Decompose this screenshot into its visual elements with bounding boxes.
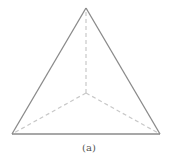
edge-top-bottom-left: [12, 8, 86, 134]
figure-caption: (a): [0, 142, 178, 153]
hidden-edge-center-bottom-right: [86, 93, 160, 134]
tetrahedron-diagram: [0, 0, 178, 165]
hidden-edge-center-bottom-left: [12, 93, 86, 134]
edge-top-bottom-right: [86, 8, 160, 134]
hidden-edges: [12, 8, 160, 134]
